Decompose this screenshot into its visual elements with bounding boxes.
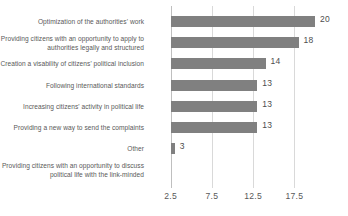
bar	[171, 37, 299, 48]
x-tick-label: 17.5	[286, 191, 304, 201]
bar	[171, 58, 266, 69]
bar-value-label: 18	[304, 35, 314, 45]
bar-value-label: 3	[180, 141, 185, 151]
category-axis-labels: Optimization of the authorities' workPro…	[0, 6, 148, 188]
bar	[171, 80, 258, 91]
bar-value-label: 13	[262, 99, 272, 109]
bar-row: 20	[150, 12, 348, 33]
bar	[171, 122, 258, 133]
bar-value-label: 13	[262, 120, 272, 130]
bar	[171, 101, 258, 112]
category-label: Following international standards	[0, 81, 144, 90]
x-axis-tick-labels: 2.57.512.517.5	[150, 191, 348, 209]
bar-value-label: 20	[320, 14, 330, 24]
x-tick-label: 12.5	[244, 191, 262, 201]
x-tick-label: 2.5	[164, 191, 177, 201]
bar	[171, 143, 175, 154]
bar-value-label: 13	[262, 78, 272, 88]
plot-area: 2018141313133	[150, 6, 348, 188]
bar	[171, 16, 315, 27]
bar-row	[150, 160, 348, 181]
category-label: Increasing citizens' activity in politic…	[0, 102, 144, 111]
bar-chart: Optimization of the authorities' workPro…	[0, 0, 348, 216]
category-label: Providing citizens with an opportunity t…	[0, 161, 144, 179]
category-label: Creation a visability of citizens' polit…	[0, 59, 144, 68]
bar-row: 13	[150, 76, 348, 97]
category-label: Providing citizens with an opportunity t…	[0, 34, 144, 52]
bar-value-label: 14	[271, 56, 281, 66]
category-label: Optimization of the authorities' work	[0, 17, 144, 26]
category-label: Other	[0, 144, 144, 153]
bar-row: 13	[150, 97, 348, 118]
x-tick-label: 7.5	[206, 191, 219, 201]
bar-row: 13	[150, 118, 348, 139]
bar-row: 18	[150, 33, 348, 54]
category-label: Providing a new way to send the complain…	[0, 123, 144, 132]
bar-row: 3	[150, 139, 348, 160]
bar-row: 14	[150, 54, 348, 75]
